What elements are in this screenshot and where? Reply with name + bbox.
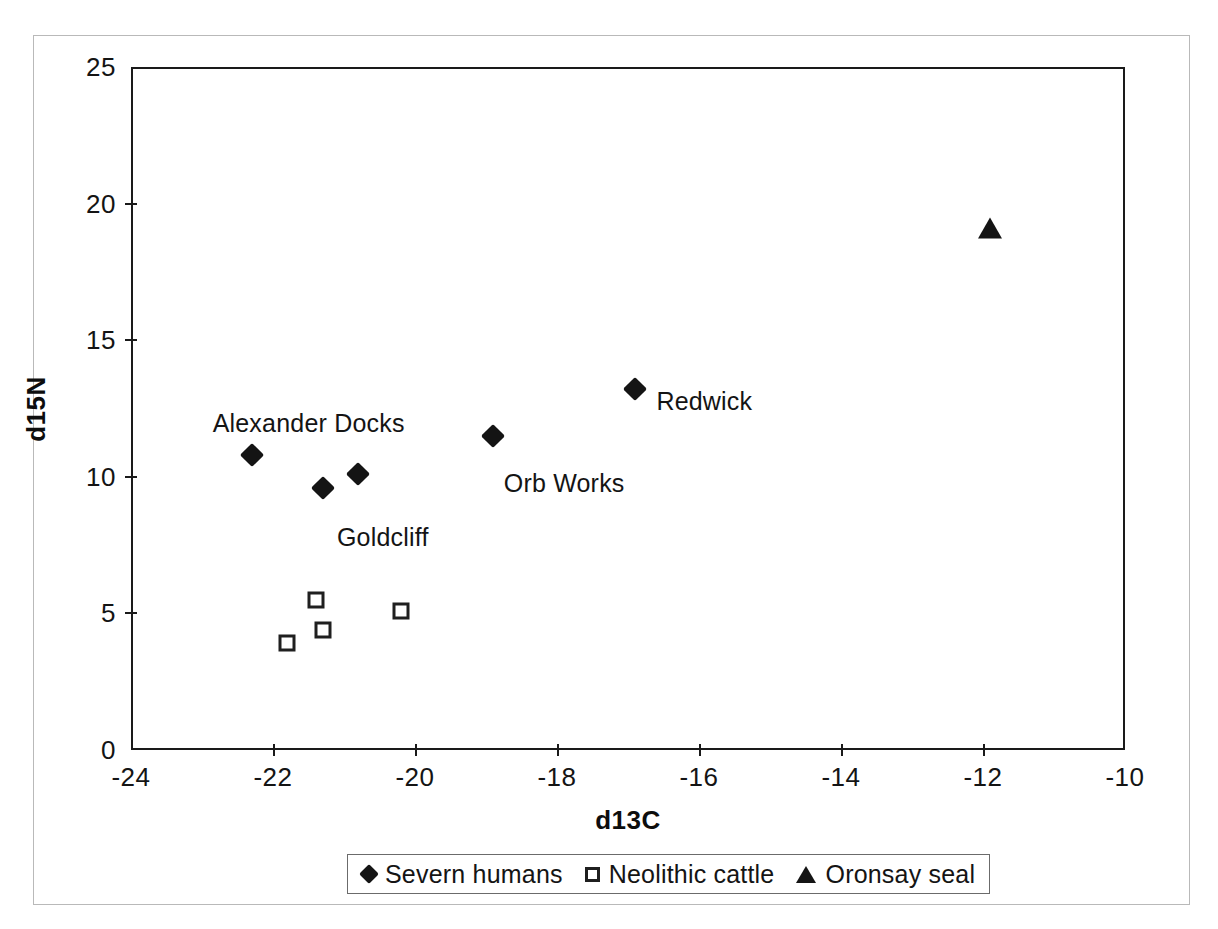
x-tick-label: -20 — [395, 762, 434, 793]
open-square-icon — [585, 867, 600, 882]
legend-label: Oronsay seal — [825, 860, 975, 889]
y-tick-label: 20 — [86, 188, 116, 219]
point-annotation: Orb Works — [504, 469, 625, 498]
data-point-open-square-icon — [314, 621, 331, 638]
data-point-open-square-icon — [279, 635, 296, 652]
legend-label: Severn humans — [385, 860, 563, 889]
chart-page: 0510152025 -24-22-20-18-16-14-12-10 d15N… — [0, 0, 1218, 929]
y-tick-label: 5 — [101, 598, 116, 629]
data-point-filled-diamond-icon — [311, 476, 335, 500]
data-layer: Alexander DocksGoldcliffOrb WorksRedwick — [131, 67, 1125, 750]
y-tick-label: 25 — [86, 52, 116, 83]
data-point-open-square-icon — [307, 591, 324, 608]
x-tick-label: -18 — [537, 762, 576, 793]
data-point-filled-diamond-icon — [623, 377, 647, 401]
data-point-filled-diamond-icon — [346, 462, 370, 486]
x-tick-label: -12 — [963, 762, 1002, 793]
y-tick-label: 10 — [86, 461, 116, 492]
filled-triangle-icon — [796, 866, 816, 883]
legend-item: Severn humans — [362, 860, 563, 889]
data-point-filled-triangle-icon — [978, 218, 1002, 239]
x-axis-title: d13C — [595, 805, 661, 836]
legend-label: Neolithic cattle — [609, 860, 775, 889]
data-point-filled-diamond-icon — [240, 443, 264, 467]
y-tick-label: 15 — [86, 325, 116, 356]
legend-item: Neolithic cattle — [585, 860, 775, 889]
x-tick-label: -24 — [111, 762, 150, 793]
x-tick-label: -14 — [821, 762, 860, 793]
point-annotation: Goldcliff — [337, 523, 429, 552]
point-annotation: Redwick — [656, 387, 752, 416]
point-annotation: Alexander Docks — [213, 409, 405, 438]
filled-diamond-icon — [359, 864, 379, 884]
x-tick-label: -16 — [679, 762, 718, 793]
x-tick-label: -22 — [253, 762, 292, 793]
data-point-filled-diamond-icon — [481, 424, 505, 448]
y-tick-label: 0 — [101, 735, 116, 766]
legend-item: Oronsay seal — [796, 860, 975, 889]
x-tick-label: -10 — [1105, 762, 1144, 793]
data-point-open-square-icon — [392, 602, 409, 619]
y-axis-title: d15N — [21, 376, 52, 442]
chart-legend: Severn humansNeolithic cattleOronsay sea… — [347, 854, 990, 894]
